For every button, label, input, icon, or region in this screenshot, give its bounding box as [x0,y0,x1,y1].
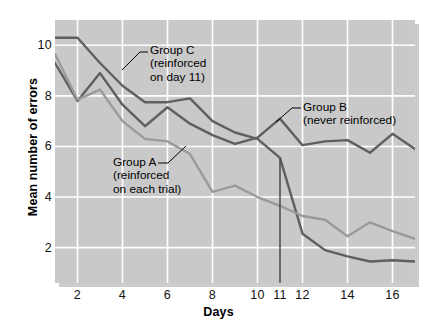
annotation-group-c: Group C (reinforced on day 11) [150,44,206,84]
x-tick-label: 10 [250,288,265,302]
x-tick-label: 12 [295,288,310,302]
x-tick-label: 4 [119,288,126,302]
annotation-group-b-line1: Group B [303,101,396,114]
annotation-group-b: Group B (never reinforced) [303,101,396,128]
y-tick-label: 2 [18,241,52,255]
chart-figure: 10 8 6 4 2 24681011121416 Mean number of… [0,0,437,325]
y-tick-label: 10 [18,38,52,52]
x-axis-title: Days [0,305,437,319]
x-tick-label: 11 [273,288,287,302]
x-tick-label: 14 [340,288,355,302]
plot-area [55,20,415,283]
annotation-group-a: Group A (reinforced on each trial) [113,156,181,196]
annotation-group-c-line2: (reinforced [150,57,206,70]
x-tick-label: 8 [209,288,216,302]
y-axis-title: Mean number of errors [26,52,40,242]
x-tick-label: 6 [164,288,171,302]
annotation-group-a-line1: Group A [113,156,181,169]
annotation-group-a-line3: on each trial) [113,183,181,196]
annotation-group-c-line1: Group C [150,44,206,57]
annotation-group-a-line2: (reinforced [113,169,181,182]
x-tick-label: 2 [74,288,81,302]
annotation-group-b-line2: (never reinforced) [303,114,396,127]
annotation-group-c-line3: on day 11) [150,71,206,84]
plot-canvas [55,20,415,283]
x-tick-label: 16 [385,288,400,302]
